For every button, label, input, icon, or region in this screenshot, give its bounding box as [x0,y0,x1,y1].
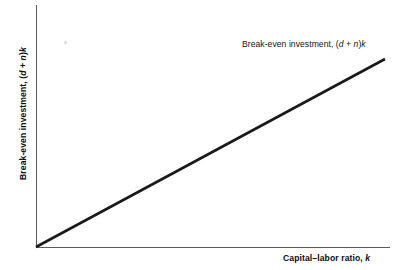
break-even-investment-line [36,59,385,247]
y-axis-label-part-1: Break-even investment, ( [18,76,28,180]
x-axis-label-text: Capital–labor ratio, [283,253,363,263]
annotation-text-part-2: + [344,39,354,49]
break-even-line-annotation: Break-even investment, (d + n)k [242,39,366,49]
y-axis-line [36,5,37,248]
economics-line-chart: Break-even investment, (d + n)k Break-ev… [0,0,407,270]
y-axis-label: Break-even investment, (d + n)k [18,5,31,180]
annotation-symbol-k: k [361,39,365,49]
scan-artifact-speck [64,41,67,44]
x-axis-line [36,247,390,248]
y-axis-symbol-k: k [18,47,28,52]
y-axis-label-part-3: ) [18,52,28,55]
y-axis-label-part-2: + [18,60,28,70]
x-axis-symbol-k: k [365,253,370,263]
x-axis-label: Capital–labor ratio, k [283,253,370,263]
y-axis-symbol-n: n [18,55,28,60]
annotation-text-part-1: Break-even investment, ( [242,39,339,49]
y-axis-symbol-d: d [18,71,28,76]
